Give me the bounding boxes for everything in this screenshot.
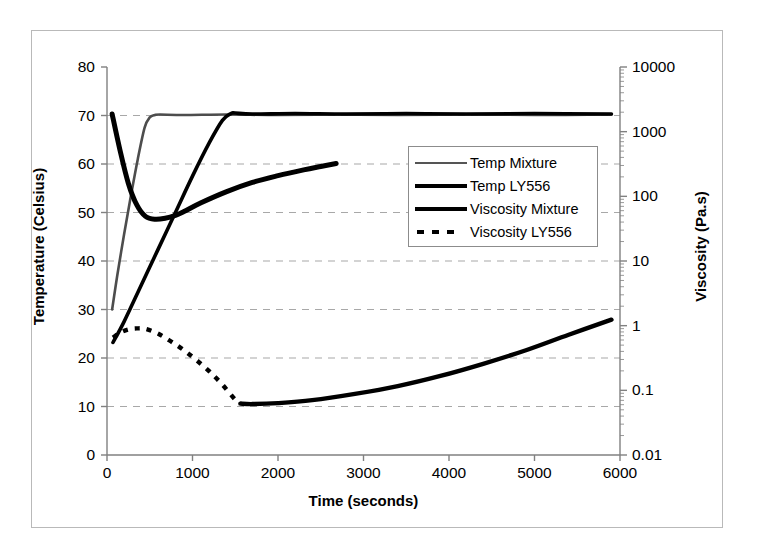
axis-lines-group xyxy=(107,67,620,455)
y-left-tick-label: 50 xyxy=(45,204,95,222)
series-line xyxy=(112,114,336,219)
legend-item[interactable]: Viscosity LY556 xyxy=(409,220,597,243)
series-line xyxy=(240,320,611,404)
series-line-dotted xyxy=(113,328,240,403)
x-tick-label: 0 xyxy=(72,464,142,482)
x-tick-label: 3000 xyxy=(329,464,399,482)
legend-item[interactable]: Temp Mixture xyxy=(409,151,597,174)
legend-item[interactable]: Temp LY556 xyxy=(409,174,597,197)
legend-swatch-icon xyxy=(415,226,467,238)
y-right-tick-label: 10000 xyxy=(632,58,702,76)
x-tick-label: 4000 xyxy=(414,464,484,482)
y-right-axis-title: Viscosity (Pa.s) xyxy=(692,147,709,347)
legend-item[interactable]: Viscosity Mixture xyxy=(409,197,597,220)
y-right-tick-label: 0.1 xyxy=(632,381,702,399)
legend-swatch-icon xyxy=(415,203,467,215)
chart-legend: Temp MixtureTemp LY556Viscosity MixtureV… xyxy=(408,146,598,247)
x-tick-label: 6000 xyxy=(585,464,655,482)
y-left-tick-label: 20 xyxy=(45,349,95,367)
x-axis-title: Time (seconds) xyxy=(107,492,620,509)
y-left-tick-label: 30 xyxy=(45,301,95,319)
legend-swatch-icon xyxy=(415,180,467,192)
x-tick-label: 1000 xyxy=(158,464,228,482)
legend-item-label: Viscosity Mixture xyxy=(470,201,579,217)
legend-swatch-icon xyxy=(415,157,467,169)
y-right-tick-label: 0.01 xyxy=(632,446,702,464)
x-tick-label: 2000 xyxy=(243,464,313,482)
y-right-tick-label: 1000 xyxy=(632,123,702,141)
legend-item-label: Temp Mixture xyxy=(470,155,557,171)
x-tick-label: 5000 xyxy=(500,464,570,482)
y-left-tick-label: 60 xyxy=(45,155,95,173)
y-left-tick-label: 70 xyxy=(45,107,95,125)
ticks-group xyxy=(101,67,627,461)
y-left-tick-label: 0 xyxy=(45,446,95,464)
y-left-tick-label: 10 xyxy=(45,398,95,416)
y-left-tick-label: 80 xyxy=(45,58,95,76)
y-left-tick-label: 40 xyxy=(45,252,95,270)
legend-item-label: Temp LY556 xyxy=(470,178,550,194)
y-left-axis-title: Temperature (Celsius) xyxy=(30,147,47,347)
legend-item-label: Viscosity LY556 xyxy=(470,224,572,240)
figure-canvas: 01020304050607080 0.010.1110100100010000… xyxy=(0,0,758,557)
